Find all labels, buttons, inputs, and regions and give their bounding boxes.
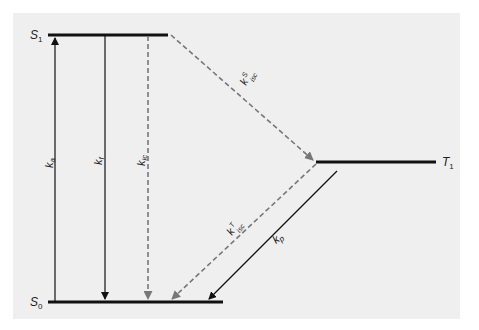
label-s0: S0 <box>30 295 43 311</box>
label-kisc-t: k T isc <box>224 217 246 239</box>
label-kf: kf <box>92 157 106 166</box>
arrow-kisc-s <box>171 35 313 160</box>
jablonski-diagram: S1 S0 T1 ka kf kic k S isc k T isc kp <box>0 0 479 330</box>
label-kp: kp <box>270 230 287 247</box>
svg-text:isc: isc <box>248 71 258 82</box>
label-kic: kic <box>135 155 149 166</box>
label-s1: S1 <box>30 28 43 44</box>
label-t1: T1 <box>442 155 454 171</box>
arrow-kisc-t <box>172 164 316 299</box>
label-kisc-s: k S isc <box>237 67 259 89</box>
svg-text:S: S <box>240 71 249 79</box>
label-ka: ka <box>43 158 57 169</box>
